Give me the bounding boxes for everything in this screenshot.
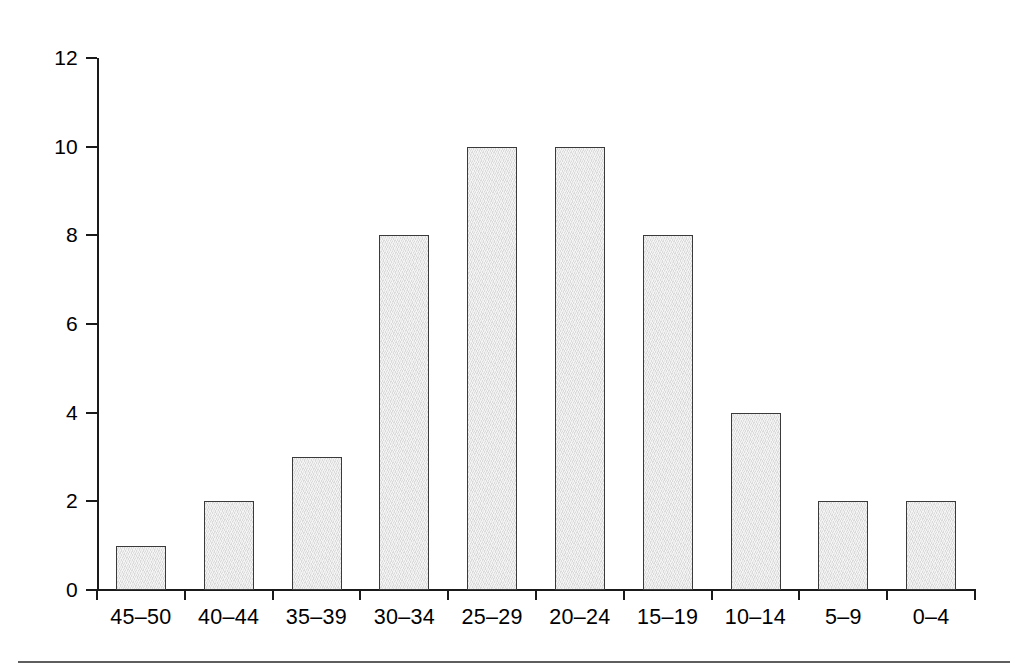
- bar: [906, 501, 956, 590]
- y-axis-tick-label-text: 2: [38, 490, 78, 511]
- x-axis-tick-mark: [359, 589, 361, 600]
- bar: [818, 501, 868, 590]
- y-axis-tick-mark: [86, 57, 97, 59]
- x-axis-category-label: 25–29: [448, 605, 536, 629]
- bar: [204, 501, 254, 590]
- bottom-rule: [18, 661, 1010, 663]
- bar: [643, 235, 693, 590]
- x-axis-tick-mark: [798, 589, 800, 600]
- y-axis-tick-label-text: 4: [38, 402, 78, 423]
- x-axis-tick-mark: [184, 589, 186, 600]
- bar: [116, 546, 166, 590]
- y-axis-tick-label: 10: [26, 136, 78, 157]
- x-axis-category-label: 0–4: [887, 605, 975, 629]
- x-axis-tick-mark: [447, 589, 449, 600]
- y-axis-tick-label-text: 0: [38, 579, 78, 600]
- bar: [555, 147, 605, 590]
- x-axis-category-label: 40–44: [185, 605, 273, 629]
- bar-chart-figure: 024681012 45–5040–4435–3930–3425–2920–24…: [0, 0, 1028, 672]
- y-axis-tick-label: 12: [26, 47, 78, 68]
- y-axis-tick-label: 2: [26, 490, 78, 511]
- bar: [292, 457, 342, 590]
- x-axis-category-label: 10–14: [712, 605, 800, 629]
- plot-area: [97, 58, 975, 590]
- x-axis-tick-mark: [886, 589, 888, 600]
- y-axis-tick-mark: [86, 146, 97, 148]
- y-axis-tick-label-text: 10: [38, 136, 78, 157]
- y-axis-tick-mark: [86, 234, 97, 236]
- x-axis-category-label: 45–50: [97, 605, 185, 629]
- y-axis-tick-label: 8: [26, 224, 78, 245]
- y-axis-tick-label: 4: [26, 402, 78, 423]
- x-axis-tick-mark: [711, 589, 713, 600]
- x-axis-category-label: 30–34: [360, 605, 448, 629]
- y-axis-tick-mark: [86, 323, 97, 325]
- y-axis-tick-label: 6: [26, 313, 78, 334]
- x-axis-category-label: 15–19: [624, 605, 712, 629]
- x-axis-tick-mark: [623, 589, 625, 600]
- x-axis-category-label: 35–39: [273, 605, 361, 629]
- bar: [467, 147, 517, 590]
- y-axis-tick-mark: [86, 500, 97, 502]
- y-axis-tick-label: 0: [26, 579, 78, 600]
- y-axis-tick-mark: [86, 412, 97, 414]
- y-axis-tick-label-text: 12: [38, 47, 78, 68]
- x-axis-category-label: 5–9: [799, 605, 887, 629]
- x-axis-category-label: 20–24: [536, 605, 624, 629]
- y-axis-tick-label-text: 8: [38, 224, 78, 245]
- x-axis-tick-mark: [272, 589, 274, 600]
- y-axis-tick-label-text: 6: [38, 313, 78, 334]
- x-axis-tick-mark: [535, 589, 537, 600]
- x-axis-tick-mark: [974, 589, 976, 600]
- bar: [379, 235, 429, 590]
- bar: [731, 413, 781, 590]
- x-axis-tick-mark: [96, 589, 98, 600]
